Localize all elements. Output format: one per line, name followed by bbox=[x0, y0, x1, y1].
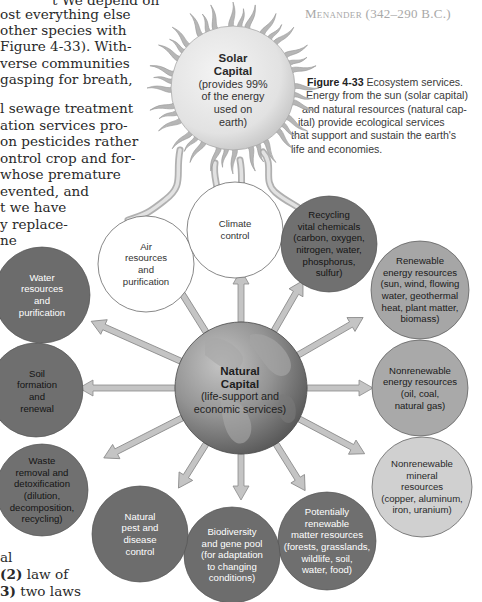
solar-capital-title: Capital bbox=[178, 65, 288, 78]
service-label: Recycling vital chemicals (carbon, oxyge… bbox=[293, 209, 364, 279]
solar-capital-title: Solar bbox=[178, 52, 288, 65]
service-potentially-renewable: Potentially renewable matter resources (… bbox=[275, 491, 379, 591]
service-renewable-energy: Renewable energy resources (sun, wind, f… bbox=[368, 240, 472, 340]
service-label: Waste removal and detoxification (diluti… bbox=[10, 455, 75, 525]
natural-capital-label: Natural Capital (life-support and econom… bbox=[175, 365, 305, 415]
service-soil: Soil formation and renewal bbox=[0, 344, 84, 438]
service-nonrenewable-mineral: Nonrenewable mineral resources (copper, … bbox=[370, 437, 474, 537]
service-nonrenewable-energy: Nonrenewable energy resources (oil, coal… bbox=[370, 340, 470, 436]
service-waste: Waste removal and detoxification (diluti… bbox=[0, 444, 90, 536]
service-climate: Climate control bbox=[189, 184, 281, 276]
service-label: Natural pest and disease control bbox=[122, 511, 159, 557]
service-label: Air resources and purification bbox=[123, 241, 169, 287]
service-label: Climate control bbox=[219, 218, 252, 241]
service-label: Water resources and purification bbox=[19, 272, 65, 318]
service-label: Soil formation and renewal bbox=[17, 368, 57, 414]
service-label: Nonrenewable energy resources (oil, coal… bbox=[383, 365, 457, 411]
service-biodiversity: Biodiversity and gene pool (for adaptati… bbox=[184, 507, 280, 602]
solar-capital-label: Solar Capital (provides 99% of the energ… bbox=[178, 52, 288, 129]
service-label: Biodiversity and gene pool (for adaptati… bbox=[201, 526, 263, 584]
solar-capital-subtitle: (provides 99% of the energy used on eart… bbox=[178, 78, 288, 129]
service-pest-control: Natural pest and disease control bbox=[92, 486, 188, 582]
natural-capital-subtitle: (life-support and economic services) bbox=[175, 390, 305, 415]
natural-capital-title: Natural Capital bbox=[175, 365, 305, 390]
service-label: Renewable energy resources (sun, wind, f… bbox=[381, 255, 460, 325]
service-label: Nonrenewable mineral resources (copper, … bbox=[381, 458, 463, 516]
service-label: Potentially renewable matter resources (… bbox=[284, 506, 370, 576]
service-water: Water resources and purification bbox=[0, 247, 90, 343]
service-recycling: Recycling vital chemicals (carbon, oxyge… bbox=[279, 194, 379, 294]
service-air: Air resources and purification bbox=[100, 218, 192, 310]
